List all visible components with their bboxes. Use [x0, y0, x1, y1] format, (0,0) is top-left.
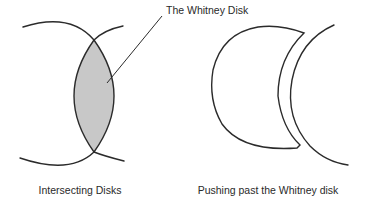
right-caption: Pushing past the Whitney disk	[198, 184, 339, 196]
left-panel: Intersecting Disks	[20, 16, 162, 196]
left-caption: Intersecting Disks	[39, 184, 122, 196]
callout-label: The Whitney Disk	[166, 4, 249, 16]
callout-leader-line	[107, 16, 162, 83]
whitney-disk-diagram: Intersecting Disks The Whitney Disk Push…	[0, 0, 376, 206]
whitney-disk-region	[74, 40, 114, 152]
crescent-disk	[212, 26, 304, 148]
right-panel: Pushing past the Whitney disk	[198, 25, 348, 196]
